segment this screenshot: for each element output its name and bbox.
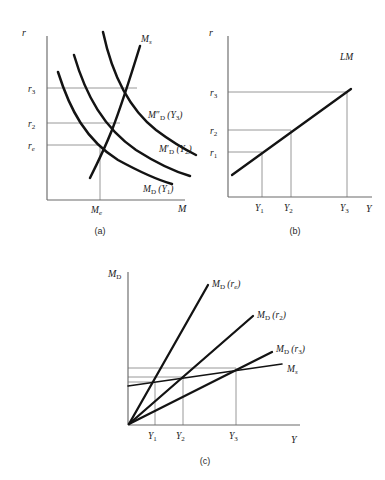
xtick-y2-c: Y2 (176, 431, 185, 443)
xtick-y1-b: Y1 (255, 203, 264, 215)
ytick-r3-b: r3 (210, 88, 218, 100)
economics-diagram: r M r3 r2 re Me Ms MD (Y1) M′D (Y2) M″D … (0, 0, 385, 480)
panel-b: r Y r3 r2 r1 Y1 Y2 Y3 LM (b) (209, 27, 373, 236)
panel-c: MD Y Y1 Y2 Y3 MD (re) MD (r2) MD (r3) Ms… (107, 268, 305, 466)
label-money-supply-a: Ms (140, 34, 152, 46)
label-money-demand-y1-a: MD (Y1) (142, 184, 173, 196)
caption-c: (c) (200, 456, 211, 466)
label-money-demand-y3-a: M″D (Y3) (147, 110, 182, 122)
ytick-r1-b: r1 (210, 148, 218, 160)
y-axis-label-b: r (209, 27, 213, 38)
ytick-r3-a: r3 (28, 84, 36, 96)
curve-money-supply-c (128, 364, 282, 386)
ytick-r2-b: r2 (210, 126, 218, 138)
figure-root: r M r3 r2 re Me Ms MD (Y1) M′D (Y2) M″D … (0, 0, 385, 480)
y-axis-label-a: r (22, 27, 26, 38)
ytick-r2-a: r2 (28, 119, 36, 131)
ytick-re-a: re (28, 141, 35, 153)
label-money-demand-re-c: MD (re) (211, 279, 241, 291)
xtick-y2-b: Y2 (284, 203, 293, 215)
x-axis-label-b: Y (366, 203, 373, 214)
label-money-demand-r3-c: MD (r3) (275, 344, 305, 356)
x-axis-label-c: Y (291, 434, 298, 445)
label-money-demand-y2-a: M′D (Y2) (158, 144, 192, 156)
y-axis-label-c: MD (107, 268, 121, 281)
xtick-y3-c: Y3 (229, 431, 238, 443)
xtick-me-a: Me (90, 205, 102, 217)
panel-a: r M r3 r2 re Me Ms MD (Y1) M′D (Y2) M″D … (22, 27, 196, 236)
xtick-y3-b: Y3 (340, 203, 349, 215)
caption-b: (b) (290, 226, 301, 236)
label-money-demand-r2-c: MD (r2) (256, 310, 286, 322)
caption-a: (a) (95, 226, 106, 236)
xtick-y1-c: Y1 (148, 431, 157, 443)
curve-money-demand-y3-a (103, 32, 196, 155)
curve-lm-b (232, 89, 351, 175)
label-lm-b: LM (339, 52, 354, 62)
label-money-supply-c: Ms (286, 364, 298, 376)
x-axis-label-a: M (177, 203, 187, 214)
